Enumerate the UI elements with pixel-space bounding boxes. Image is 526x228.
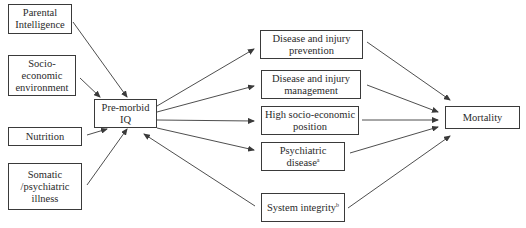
edge-somatic-to-iq [87,129,127,185]
node-nutrition: Nutrition [8,127,82,146]
node-socio-economic-environment: Socio- economic environment [8,55,76,96]
node-label-line: Somatic [28,169,62,181]
node-label-line: prevention [289,45,334,57]
node-psychiatric-disease: Psychiatric diseasea [261,142,345,171]
node-label-line: position [293,121,327,133]
node-label-line: diseasea [287,157,320,169]
node-disease-injury-prevention: Disease and injury prevention [260,30,363,59]
node-label-text: System integrity [267,202,336,213]
node-system-integrity: System integrityb [261,193,345,222]
edge-socio-to-iq [80,78,100,97]
node-high-socio-economic-position: High socio-economic position [261,106,359,135]
node-label-line: Nutrition [26,131,65,143]
node-label-line: System integrityb [267,202,339,214]
edge-system-integrity-to-mortality [348,136,450,208]
node-label-line: environment [15,82,68,94]
edge-iq-to-psychiatric [157,128,254,150]
node-somatic-psychiatric-illness: Somatic /psychiatric illness [8,163,82,210]
node-label-line: economic [22,70,63,82]
node-label-line: Psychiatric [280,145,327,157]
node-label-line: Disease and injury [272,33,350,45]
node-mortality: Mortality [445,106,520,129]
node-label-line: High socio-economic [265,109,355,121]
footnote-marker: b [336,201,339,207]
node-label-line: illness [32,193,59,205]
edge-management-to-mortality [367,85,438,112]
node-premorbid-iq: Pre-morbid IQ [94,99,157,128]
node-label-line: Pre-morbid [102,102,150,114]
node-label-line: Mortality [463,112,503,124]
edge-iq-to-high-ses [157,120,254,121]
node-label-line: Socio- [28,58,55,70]
node-label-line: Parental [23,7,57,19]
edge-nutrition-to-iq [87,129,107,135]
node-disease-injury-management: Disease and injury management [261,70,361,99]
node-label-line: Disease and injury [272,73,350,85]
edge-iq-to-management [157,86,254,112]
edge-system-integrity-to-iq [144,134,255,206]
footnote-marker: a [317,156,320,162]
edge-iq-to-prevention [157,49,254,106]
node-label-line: management [284,85,338,97]
node-label-line: /psychiatric [21,181,70,193]
node-label-line: Intelligence [15,19,65,31]
node-label-text: disease [287,157,317,168]
node-parental-intelligence: Parental Intelligence [8,4,72,34]
edge-prevention-to-mortality [367,42,450,100]
node-label-line: IQ [120,114,131,126]
edge-parental-to-iq [73,22,127,97]
edge-psychiatric-to-mortality [350,127,438,153]
